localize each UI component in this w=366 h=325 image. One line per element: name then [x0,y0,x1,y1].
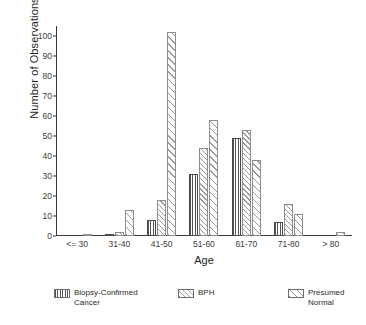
legend-label: Presumed Normal [308,288,344,307]
x-tick-label: 61-70 [225,239,267,249]
legend-item: Presumed Normal [288,288,344,307]
bar-group [267,26,309,236]
legend-label: Biopsy-Confirmed Cancer [74,288,138,307]
bar-group [98,26,140,236]
bar [209,120,218,236]
x-axis-ticks: <= 3031-4041-5051-6061-7071-80> 80 [56,239,352,249]
y-tick-label: 60 [43,112,52,121]
legend-swatch-icon [178,289,194,298]
legend-item: Biopsy-Confirmed Cancer [54,288,178,307]
y-tick-label: 0 [47,232,52,241]
bar [294,214,303,236]
x-tick-label: 51-60 [183,239,225,249]
x-axis-title: Age [56,254,352,266]
bar [336,232,345,236]
y-tick-label: 100 [38,32,52,41]
y-axis-title: Number of Observations [28,0,40,138]
x-tick-label: 71-80 [267,239,309,249]
bar [252,160,261,236]
y-tick-label: 20 [43,192,52,201]
bar [125,210,134,236]
bar [147,220,156,236]
x-tick-label: <= 30 [56,239,98,249]
bar [232,138,241,236]
bar [105,234,114,236]
y-tick-label: 50 [43,132,52,141]
bar [242,130,251,236]
plot-area: 0102030405060708090100 [56,26,352,236]
y-tick-label: 40 [43,152,52,161]
legend-swatch-icon [288,289,304,298]
legend-label: BPH [198,288,214,298]
bar [157,200,166,236]
bar [284,204,293,236]
bar-group [141,26,183,236]
bar-group [225,26,267,236]
bar-chart-figure: Number of Observations 01020304050607080… [0,0,366,325]
bar [189,174,198,236]
legend-item: BPH [178,288,288,298]
bar [83,234,92,236]
bar-groups [56,26,352,236]
y-tick-label: 80 [43,72,52,81]
bar [115,232,124,236]
bar-group [183,26,225,236]
bar [199,148,208,236]
x-tick-label: > 80 [310,239,352,249]
x-tick-label: 31-40 [98,239,140,249]
y-tick-label: 90 [43,52,52,61]
bar-group [56,26,98,236]
legend-swatch-icon [54,289,70,298]
chart-legend: Biopsy-Confirmed CancerBPHPresumed Norma… [54,288,360,307]
y-tick-label: 10 [43,212,52,221]
y-tick-label: 30 [43,172,52,181]
y-tick-label: 70 [43,92,52,101]
bar [167,32,176,236]
x-tick-label: 41-50 [141,239,183,249]
bar-group [310,26,352,236]
bar [274,222,283,236]
